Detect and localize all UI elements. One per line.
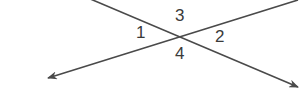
angle-label-3: 3 [175,7,184,24]
line-ascending [48,0,298,78]
lines-svg [0,0,300,94]
angle-label-1: 1 [136,24,145,41]
line-descending [88,0,298,87]
angle-label-4: 4 [175,45,184,62]
diagram-canvas: 1 2 3 4 [0,0,300,94]
angle-label-2: 2 [215,28,224,45]
